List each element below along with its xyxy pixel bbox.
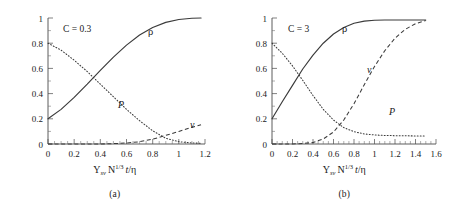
condition-label-a: C = 0.3 xyxy=(63,24,92,34)
curve-label-rho-a: ρ xyxy=(148,26,153,37)
x-tick-label-b-8: 1.6 xyxy=(430,149,442,159)
x-tick-label-a-1: 0.2 xyxy=(69,149,80,159)
y-tick-label-a-2: 0.4 xyxy=(32,89,44,99)
curve-label-rho-b: ρ xyxy=(342,23,347,34)
x-axis-title-a-eta: η xyxy=(131,164,136,175)
plot-area-b: 1 0.8 0.6 0.4 0.2 0 xyxy=(230,0,459,163)
y-tick-label-a-1: 0.2 xyxy=(32,114,43,124)
x-tick-label-b-4: 0.8 xyxy=(348,149,360,159)
x-axis-title-a: YsvN1/3t/η xyxy=(0,163,230,176)
y-tick-label-b-1: 0.2 xyxy=(255,114,266,124)
x-axis-title-a-ysub: sv xyxy=(100,169,105,176)
y-tick-label-b-4: 0.8 xyxy=(255,39,267,49)
x-axis-title-b-n: N xyxy=(337,164,344,175)
x-tick-label-a-3: 0.6 xyxy=(121,149,133,159)
x-tick-label-b-1: 0.2 xyxy=(286,149,297,159)
curve-p-a xyxy=(48,43,201,143)
condition-label-b: C = 3 xyxy=(288,24,309,34)
x-tick-label-a-5: 1 xyxy=(177,149,182,159)
subcaption-b: (b) xyxy=(230,189,459,199)
x-axis-title-b-y: Y xyxy=(323,164,330,175)
curve-label-p-b: P xyxy=(388,106,395,117)
x-tick-label-a-0: 0 xyxy=(46,149,51,159)
y-ticks-b xyxy=(272,18,277,144)
y-tick-label-b-5: 1 xyxy=(262,14,267,24)
panel-b: 1 0.8 0.6 0.4 0.2 0 xyxy=(230,0,459,219)
curve-p-b xyxy=(272,43,426,136)
y-tick-label-a-3: 0.6 xyxy=(32,64,44,74)
y-tick-label-a-0: 0 xyxy=(39,140,44,150)
curve-label-p-a: P xyxy=(117,99,124,110)
curve-label-nu-a: ν xyxy=(190,119,195,130)
x-tick-label-b-5: 1 xyxy=(372,149,377,159)
x-tick-label-b-3: 0.6 xyxy=(327,149,339,159)
x-axis-title-b-ysub: sv xyxy=(330,169,335,176)
x-tick-label-b-2: 0.4 xyxy=(307,149,319,159)
curve-rho-b xyxy=(272,20,426,119)
y-ticks-a xyxy=(48,18,53,144)
x-axis-title-b: YsvN1/3t/η xyxy=(230,163,459,176)
x-axis-title-a-nsup: 1/3 xyxy=(115,163,123,170)
x-ticks-b xyxy=(272,139,436,144)
y-tick-label-a-5: 1 xyxy=(39,14,44,24)
x-tick-label-a-2: 0.4 xyxy=(95,149,107,159)
y-tick-label-b-2: 0.4 xyxy=(255,89,267,99)
figure-container: 1 0.8 0.6 0.4 0.2 0 xyxy=(0,0,459,219)
plot-area-a: 1 0.8 0.6 0.4 0.2 0 xyxy=(0,0,229,163)
panel-a: 1 0.8 0.6 0.4 0.2 0 xyxy=(0,0,230,219)
x-axis-title-b-eta: η xyxy=(361,164,366,175)
subcaption-a: (a) xyxy=(0,189,230,199)
curve-label-nu-b: ν xyxy=(367,64,372,75)
y-tick-label-a-4: 0.8 xyxy=(32,39,44,49)
x-tick-label-a-4: 0.8 xyxy=(147,149,159,159)
y-tick-label-b-0: 0 xyxy=(262,140,267,150)
x-tick-label-b-7: 1.4 xyxy=(409,149,421,159)
x-tick-label-a-6: 1.2 xyxy=(199,149,210,159)
y-tick-label-b-3: 0.6 xyxy=(255,64,267,74)
x-tick-label-b-6: 1.2 xyxy=(389,149,400,159)
x-axis-title-b-nsup: 1/3 xyxy=(345,163,353,170)
x-tick-label-b-0: 0 xyxy=(269,149,274,159)
